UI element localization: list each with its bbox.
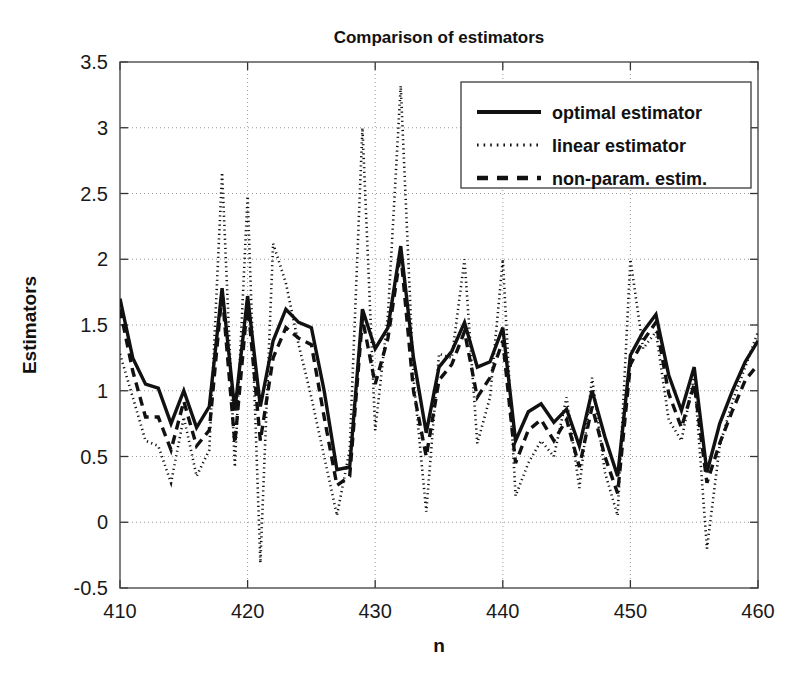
x-tick-label: 460 [741, 600, 774, 622]
legend-label-dashed: non-param. estim. [552, 169, 707, 189]
y-tick-label: -0.5 [74, 577, 108, 599]
legend-label-dotted: linear estimator [552, 136, 686, 156]
x-tick-label: 440 [486, 600, 519, 622]
y-axis-label: Estimators [19, 276, 40, 374]
y-tick-label: 0.5 [80, 446, 108, 468]
y-tick-label: 1.5 [80, 314, 108, 336]
x-axis-label: n [433, 635, 445, 656]
x-tick-label: 450 [614, 600, 647, 622]
y-tick-label: 3.5 [80, 51, 108, 73]
figure-container: Comparison of estimators -0.500.511.522.… [0, 0, 805, 676]
x-tick-label: 410 [103, 600, 136, 622]
x-tick-label: 430 [359, 600, 392, 622]
legend-label-solid: optimal estimator [552, 103, 702, 123]
y-tick-label: 2 [97, 248, 108, 270]
y-tick-label: 0 [97, 511, 108, 533]
y-tick-label: 1 [97, 380, 108, 402]
legend: optimal estimatorlinear estimatornon-par… [461, 82, 751, 189]
y-tick-label: 3 [97, 117, 108, 139]
x-tick-label: 420 [231, 600, 264, 622]
chart-title: Comparison of estimators [334, 28, 545, 47]
y-tick-label: 2.5 [80, 183, 108, 205]
estimators-comparison-chart: Comparison of estimators -0.500.511.522.… [0, 0, 805, 676]
